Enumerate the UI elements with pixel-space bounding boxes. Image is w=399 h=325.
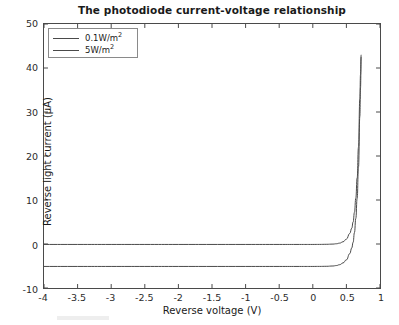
y-axis-ticks xyxy=(44,24,380,288)
y-tick-label: 50 xyxy=(4,18,38,29)
series-line xyxy=(44,55,361,245)
plot-area xyxy=(43,23,381,289)
legend-item-label: 0.1W/m2 xyxy=(85,34,122,43)
plot-canvas xyxy=(44,24,380,288)
series-line xyxy=(44,57,361,266)
scan-artifact xyxy=(57,316,109,320)
data-series-group xyxy=(44,55,361,267)
legend-item: 0.1W/m2 xyxy=(53,32,133,44)
legend-line-swatch xyxy=(53,38,79,39)
y-tick-label: 10 xyxy=(4,195,38,206)
x-tick-label: 1 xyxy=(361,292,399,303)
y-axis-title: Reverse light current (μA) xyxy=(42,29,53,295)
chart-figure: The photodiode current-voltage relations… xyxy=(0,0,399,325)
legend-line-swatch xyxy=(53,50,79,51)
legend-item: 5W/m2 xyxy=(53,44,133,56)
x-axis-tick-labels: -4-3.5-3-2.5-2-1.5-1-0.500.51 xyxy=(43,292,381,306)
y-tick-label: 40 xyxy=(4,62,38,73)
y-tick-label: 0 xyxy=(4,239,38,250)
x-axis-title: Reverse voltage (V) xyxy=(43,305,381,316)
x-axis-ticks xyxy=(44,24,380,288)
chart-legend: 0.1W/m2 5W/m2 xyxy=(48,28,138,58)
legend-item-label: 5W/m2 xyxy=(85,46,114,55)
y-tick-label: 30 xyxy=(4,106,38,117)
y-axis-tick-labels: -1001020304050 xyxy=(0,23,38,289)
y-tick-label: 20 xyxy=(4,151,38,162)
chart-title: The photodiode current-voltage relations… xyxy=(43,4,381,16)
